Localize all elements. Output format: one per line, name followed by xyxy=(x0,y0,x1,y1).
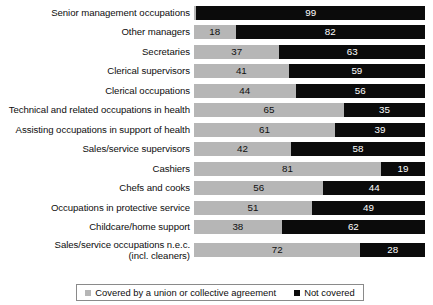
bar-track: 4258 xyxy=(194,142,425,156)
bar-track: 4159 xyxy=(194,64,425,78)
chart-row: Chefs and cooks5644 xyxy=(0,179,433,199)
chart-row: Senior management occupations99 xyxy=(0,3,433,23)
row-category-label: Chefs and cooks xyxy=(0,183,194,194)
bar-track: 6535 xyxy=(194,103,425,117)
bar-value-not-covered: 56 xyxy=(355,86,366,96)
bar-segment-covered: 37 xyxy=(194,45,279,59)
bar-value-covered: 38 xyxy=(232,222,243,232)
row-category-label: Sales/service supervisors xyxy=(0,144,194,155)
row-category-label: Childcare/home support xyxy=(0,222,194,233)
bar-segment-not-covered: 49 xyxy=(312,201,425,215)
bar-track: 3862 xyxy=(194,220,425,234)
chart-legend: Covered by a union or collective agreeme… xyxy=(76,284,364,301)
bar-value-covered: 18 xyxy=(209,27,220,37)
bar-value-covered: 37 xyxy=(231,47,242,57)
chart-row: Occupations in protective service5149 xyxy=(0,198,433,218)
bar-segment-not-covered: 63 xyxy=(279,45,425,59)
legend-entry: Not covered xyxy=(294,288,355,298)
bar-segment-not-covered: 19 xyxy=(381,162,425,176)
bar-value-covered: 65 xyxy=(264,105,275,115)
bar-value-not-covered: 63 xyxy=(347,47,358,57)
bar-value-covered: 81 xyxy=(282,164,293,174)
chart-plot-area: Senior management occupations99Other man… xyxy=(0,3,433,263)
bar-track: 7228 xyxy=(194,243,425,257)
bar-value-not-covered: 99 xyxy=(305,8,316,18)
bar-segment-not-covered: 28 xyxy=(360,243,425,257)
chart-row: Clerical supervisors4159 xyxy=(0,62,433,82)
legend-entry: Covered by a union or collective agreeme… xyxy=(85,288,276,298)
chart-row: Technical and related occupations in hea… xyxy=(0,101,433,121)
legend-swatch-covered-icon xyxy=(85,290,91,296)
row-category-label: Secretaries xyxy=(0,47,194,58)
legend-label: Covered by a union or collective agreeme… xyxy=(95,288,276,298)
row-category-label: Other managers xyxy=(0,27,194,38)
stacked-bar-chart: Senior management occupations99Other man… xyxy=(0,0,433,305)
bar-segment-covered: 56 xyxy=(194,181,323,195)
bar-track: 99 xyxy=(194,6,425,20)
bar-segment-covered: 65 xyxy=(194,103,344,117)
chart-row: Secretaries3763 xyxy=(0,42,433,62)
bar-segment-covered: 38 xyxy=(194,220,282,234)
bar-segment-not-covered: 62 xyxy=(282,220,425,234)
bar-segment-not-covered: 39 xyxy=(335,123,425,137)
row-category-label: Clerical occupations xyxy=(0,86,194,97)
bar-value-covered: 44 xyxy=(239,86,250,96)
row-category-label: Technical and related occupations in hea… xyxy=(0,105,194,116)
row-category-label: Clerical supervisors xyxy=(0,66,194,77)
row-category-label: Occupations in protective service xyxy=(0,203,194,214)
bar-segment-covered: 72 xyxy=(194,243,360,257)
bar-value-covered: 72 xyxy=(272,245,283,255)
bar-track: 1882 xyxy=(194,25,425,39)
bar-segment-not-covered: 82 xyxy=(236,25,425,39)
bar-track: 8119 xyxy=(194,162,425,176)
bar-value-not-covered: 44 xyxy=(369,183,380,193)
chart-row: Sales/service occupations n.e.c. (incl. … xyxy=(0,237,433,263)
bar-track: 3763 xyxy=(194,45,425,59)
bar-segment-covered: 61 xyxy=(194,123,335,137)
bar-segment-not-covered: 44 xyxy=(323,181,425,195)
bar-segment-covered: 18 xyxy=(194,25,236,39)
bar-segment-covered: 41 xyxy=(194,64,289,78)
bar-segment-not-covered: 58 xyxy=(291,142,425,156)
chart-row: Cashiers8119 xyxy=(0,159,433,179)
bar-track: 4456 xyxy=(194,84,425,98)
bar-value-covered: 61 xyxy=(259,125,270,135)
bar-track: 5644 xyxy=(194,181,425,195)
bar-value-not-covered: 58 xyxy=(353,144,364,154)
bar-segment-covered: 51 xyxy=(194,201,312,215)
chart-row: Sales/service supervisors4258 xyxy=(0,140,433,160)
bar-segment-covered: 81 xyxy=(194,162,381,176)
bar-value-not-covered: 35 xyxy=(379,105,390,115)
legend-swatch-notcovered-icon xyxy=(294,290,300,296)
chart-row: Childcare/home support3862 xyxy=(0,218,433,238)
bar-segment-not-covered: 56 xyxy=(296,84,425,98)
bar-value-covered: 42 xyxy=(237,144,248,154)
legend-label: Not covered xyxy=(304,288,355,298)
row-category-label: Sales/service occupations n.e.c. (incl. … xyxy=(0,239,194,261)
bar-segment-covered: 44 xyxy=(194,84,296,98)
bar-value-not-covered: 49 xyxy=(363,203,374,213)
bar-value-covered: 41 xyxy=(236,66,247,76)
chart-row: Clerical occupations4456 xyxy=(0,81,433,101)
row-category-label: Cashiers xyxy=(0,164,194,175)
bar-value-not-covered: 62 xyxy=(348,222,359,232)
chart-row: Assisting occupations in support of heal… xyxy=(0,120,433,140)
bar-track: 5149 xyxy=(194,201,425,215)
bar-segment-not-covered: 35 xyxy=(344,103,425,117)
bar-value-covered: 51 xyxy=(247,203,258,213)
row-category-label: Senior management occupations xyxy=(0,8,194,19)
bar-value-not-covered: 39 xyxy=(374,125,385,135)
bar-track: 6139 xyxy=(194,123,425,137)
bar-value-not-covered: 28 xyxy=(387,245,398,255)
bar-segment-not-covered: 59 xyxy=(289,64,425,78)
bar-value-not-covered: 82 xyxy=(325,27,336,37)
bar-value-not-covered: 19 xyxy=(398,164,409,174)
row-category-label: Assisting occupations in support of heal… xyxy=(0,125,194,136)
bar-segment-covered: 42 xyxy=(194,142,291,156)
bar-value-not-covered: 59 xyxy=(351,66,362,76)
chart-row: Other managers1882 xyxy=(0,23,433,43)
bar-segment-not-covered: 99 xyxy=(196,6,425,20)
bar-value-covered: 56 xyxy=(253,183,264,193)
